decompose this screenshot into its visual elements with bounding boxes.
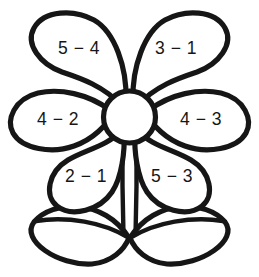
leaf-right — [130, 206, 228, 264]
petal-label-middle-left: 4 − 2 — [37, 109, 79, 129]
petal-label-bottom-right: 5 − 3 — [151, 166, 193, 186]
leaf-left — [31, 206, 129, 264]
petal-label-top-right: 3 − 1 — [155, 38, 197, 58]
petal-label-middle-right: 4 − 3 — [180, 109, 222, 129]
petal-label-top-left: 5 − 4 — [58, 38, 100, 58]
worksheet-canvas: 5 − 4 3 − 1 4 − 2 4 − 3 2 − 1 5 − 3 — [0, 0, 259, 277]
flower-illustration: 5 − 4 3 − 1 4 − 2 4 − 3 2 − 1 5 − 3 — [0, 0, 259, 277]
petal-middle-right[interactable]: 4 − 3 — [148, 91, 248, 149]
petal-middle-left[interactable]: 4 − 2 — [11, 91, 111, 149]
petal-label-bottom-left: 2 − 1 — [65, 166, 107, 186]
flower-center[interactable] — [104, 91, 156, 143]
